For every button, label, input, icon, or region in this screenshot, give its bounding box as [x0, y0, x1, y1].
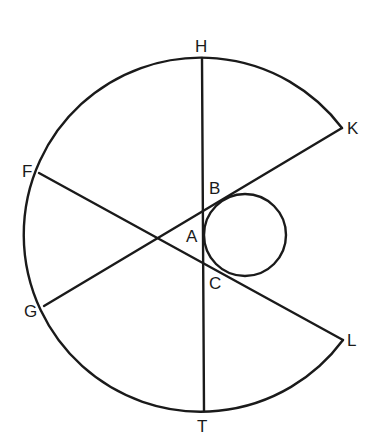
- outer-arc: [24, 58, 343, 412]
- diagram-canvas: H K F B A C G L T: [0, 0, 371, 444]
- line-gk: [44, 128, 342, 306]
- label-c: C: [209, 274, 221, 293]
- label-k: K: [347, 119, 359, 138]
- label-h: H: [195, 37, 207, 56]
- label-b: B: [209, 179, 220, 198]
- label-t: T: [197, 417, 207, 436]
- label-l: L: [347, 331, 356, 350]
- label-a: A: [186, 227, 198, 246]
- inner-circle: [204, 194, 286, 276]
- line-fl: [39, 173, 343, 340]
- label-f: F: [22, 162, 32, 181]
- label-g: G: [24, 302, 37, 321]
